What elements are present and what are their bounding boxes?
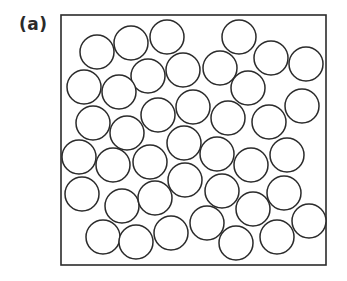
circle-disk [167,126,201,160]
circle-disk [219,226,253,260]
circle-disk [205,174,239,208]
circle-disk [200,137,234,171]
circle-disk [285,89,319,123]
circle-disk [234,148,268,182]
circle-disk [176,90,210,124]
circle-disk [119,225,153,259]
circle-disk [203,51,237,85]
circle-disk [267,176,301,210]
circle-disk [102,75,136,109]
circle-disk [67,70,101,104]
circle-disk [289,47,323,81]
circle-disk [76,106,110,140]
circle-disk [252,105,286,139]
circle-disk [190,206,224,240]
circle-disk [292,204,326,238]
circle-disk [254,41,288,75]
circle-disk [80,35,114,69]
circle-disk [110,116,144,150]
circle-disk [96,148,130,182]
circle-packing-diagram [0,0,347,281]
circle-disk [211,101,245,135]
circle-disk [62,140,96,174]
circle-disk [154,216,188,250]
circle-disk [138,181,172,215]
circle-disk [133,145,167,179]
circle-disk [150,20,184,54]
circle-group [62,20,326,260]
circle-disk [65,177,99,211]
circle-disk [260,220,294,254]
circle-disk [231,71,265,105]
circle-disk [86,220,120,254]
circle-disk [222,20,256,54]
circle-disk [166,53,200,87]
circle-disk [168,163,202,197]
circle-disk [141,98,175,132]
circle-disk [114,26,148,60]
circle-disk [270,138,304,172]
circle-disk [105,189,139,223]
circle-disk [236,192,270,226]
